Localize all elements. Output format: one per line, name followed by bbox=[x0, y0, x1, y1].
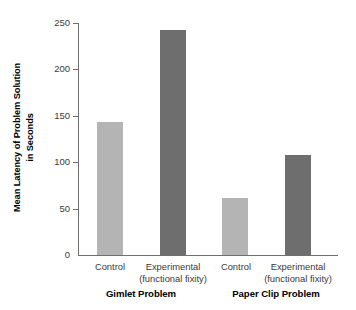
y-tick-mark-250 bbox=[73, 23, 78, 24]
y-tick-mark-150 bbox=[73, 116, 78, 117]
y-axis-line bbox=[78, 23, 79, 256]
bar-paperclip-control bbox=[222, 198, 248, 255]
x-axis-line bbox=[78, 255, 338, 256]
y-tick-label-150: 150 bbox=[30, 111, 70, 121]
x-label-paperclip-experimental-line1: Experimental bbox=[271, 261, 326, 272]
bar-paperclip-experimental bbox=[285, 155, 311, 255]
x-label-paperclip-experimental: Experimental (functional fixity) bbox=[239, 261, 356, 285]
group-label-paperclip: Paper Clip Problem bbox=[214, 288, 338, 299]
bar-gimlet-experimental bbox=[160, 30, 186, 256]
y-tick-label-200: 200 bbox=[30, 64, 70, 74]
y-tick-mark-50 bbox=[73, 209, 78, 210]
y-tick-label-100: 100 bbox=[30, 157, 70, 167]
y-tick-label-0: 0 bbox=[30, 250, 70, 260]
plot-area: 250 200 150 100 50 0 Control Experimenta… bbox=[0, 0, 356, 310]
y-tick-label-250: 250 bbox=[30, 18, 70, 28]
y-tick-label-50: 50 bbox=[30, 204, 70, 214]
y-tick-mark-100 bbox=[73, 162, 78, 163]
y-tick-mark-200 bbox=[73, 69, 78, 70]
bar-gimlet-control bbox=[97, 122, 123, 255]
group-label-gimlet: Gimlet Problem bbox=[91, 288, 191, 299]
x-label-gimlet-experimental-line2: (functional fixity) bbox=[114, 273, 232, 285]
x-label-paperclip-experimental-line2: (functional fixity) bbox=[239, 273, 356, 285]
bar-chart-figure: Mean Latency of Problem Solution in Seco… bbox=[0, 0, 356, 310]
